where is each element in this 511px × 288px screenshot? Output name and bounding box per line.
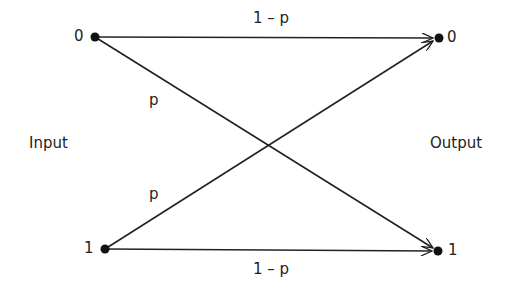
input-side-label: Input: [29, 136, 68, 151]
output-node-0-label: 0: [447, 30, 457, 45]
edge-0-to-1-label: p: [149, 93, 159, 108]
edge-1-to-1: [105, 249, 432, 251]
edge-0-to-1: [95, 37, 433, 248]
input-node-0: [91, 33, 100, 42]
output-side-label: Output: [430, 136, 482, 151]
bsc-diagram: 0 1 0 1 1 – p p p 1 – p Input Output: [0, 0, 511, 288]
edge-0-to-0-label: 1 – p: [253, 11, 289, 26]
edge-1-to-0-label: p: [149, 187, 159, 202]
input-node-1: [101, 245, 110, 254]
edge-0-to-0: [95, 37, 433, 38]
output-node-1-label: 1: [448, 243, 458, 258]
input-node-1-label: 1: [84, 241, 94, 256]
input-node-0-label: 0: [74, 29, 84, 44]
output-node-1: [434, 247, 443, 256]
output-node-0: [435, 34, 444, 43]
edge-1-to-1-label: 1 – p: [253, 262, 289, 277]
